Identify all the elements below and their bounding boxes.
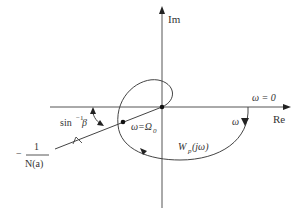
svg-text:0: 0 (153, 127, 157, 135)
transfer-function-label: W p (jω) (178, 141, 209, 155)
intersection-point-omega0 (121, 120, 126, 125)
svg-text:sin: sin (60, 117, 72, 128)
svg-text:(jω): (jω) (192, 141, 209, 153)
imag-axis-label: Im (168, 13, 181, 25)
neg-inverse-label: − 1 N(a) (16, 141, 49, 170)
curve-direction-arrow-icon (241, 118, 249, 126)
omega-intersection-label: ω=Ω 0 (131, 121, 157, 135)
real-axis-arrow-icon (283, 104, 291, 110)
svg-text:−: − (16, 148, 22, 159)
real-axis (50, 104, 291, 110)
svg-text:β: β (81, 117, 87, 128)
svg-text:W: W (178, 141, 188, 152)
omega-zero-label: ω = 0 (252, 92, 276, 103)
svg-text:N(a): N(a) (25, 158, 43, 170)
angle-arrow-bottom-icon (97, 120, 104, 126)
angle-label: sin −1 β (60, 114, 87, 128)
svg-text:ω=Ω: ω=Ω (131, 121, 152, 132)
imag-axis-arrow-icon (159, 6, 165, 14)
curve-direction-arrow-lower-icon (140, 148, 147, 155)
svg-text:1: 1 (34, 141, 39, 152)
nyquist-diagram: Im Re ω = 0 ω ω=Ω 0 W p (jω) sin −1 β − (0, 0, 304, 213)
omega-label: ω (232, 116, 239, 127)
origin-point (160, 105, 165, 110)
real-axis-label: Re (273, 113, 285, 125)
angle-arrow-top-icon (90, 107, 96, 114)
